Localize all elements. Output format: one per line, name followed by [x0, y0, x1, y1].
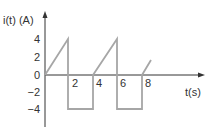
waveform-line [45, 39, 151, 109]
y-axis-label: i(t) (A) [3, 14, 34, 26]
y-tick-minus-4: −4 [27, 103, 40, 115]
x-tick-6: 6 [120, 77, 126, 89]
y-tick-2: 2 [34, 51, 40, 63]
x-axis-label: t(s) [185, 86, 201, 98]
y-tick-4: 4 [34, 33, 40, 45]
y-tick-minus-2: −2 [27, 86, 40, 98]
y-axis-arrow-icon [43, 11, 48, 18]
x-tick-4: 4 [96, 77, 102, 89]
y-tick-0: 0 [34, 69, 40, 81]
x-tick-2: 2 [72, 77, 78, 89]
x-axis-arrow-icon [198, 73, 205, 78]
current-waveform-chart: i(t) (A) 4 2 0 −2 −4 2 4 6 8 t(s) [0, 0, 211, 135]
x-tick-8: 8 [145, 77, 151, 89]
